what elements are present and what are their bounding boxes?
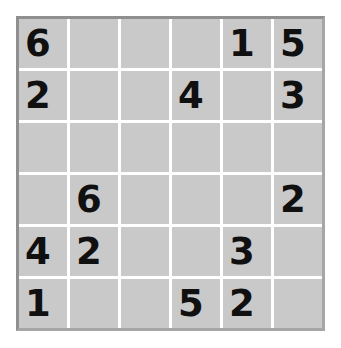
cell-r6c1[interactable]: 1 [19,279,67,328]
cell-r1c5[interactable]: 1 [223,19,271,68]
cell-r5c6[interactable] [274,227,322,276]
cell-r2c4[interactable]: 4 [172,71,220,120]
cell-r1c3[interactable] [121,19,169,68]
cell-r2c1[interactable]: 2 [19,71,67,120]
sudoku-puzzle-container: 6 1 5 2 4 3 6 2 4 2 [0,0,341,348]
cell-r5c1[interactable]: 4 [19,227,67,276]
cell-value: 6 [19,25,50,62]
cell-value: 4 [172,77,203,114]
cell-value: 4 [19,233,50,270]
cell-r3c5[interactable] [223,123,271,172]
cell-r5c5[interactable]: 3 [223,227,271,276]
cell-value: 2 [19,77,50,114]
cell-value: 3 [223,233,254,270]
cell-r6c4[interactable]: 5 [172,279,220,328]
cell-r3c4[interactable] [172,123,220,172]
cell-value: 6 [70,181,101,218]
cell-r4c2[interactable]: 6 [70,175,118,224]
cell-value: 3 [274,77,305,114]
cell-r3c2[interactable] [70,123,118,172]
cell-value: 1 [223,25,254,62]
cell-r6c5[interactable]: 2 [223,279,271,328]
cell-r2c3[interactable] [121,71,169,120]
cell-r4c3[interactable] [121,175,169,224]
sudoku-grid: 6 1 5 2 4 3 6 2 4 2 [19,19,322,328]
cell-value: 2 [274,181,305,218]
sudoku-board: 6 1 5 2 4 3 6 2 4 2 [16,16,325,331]
cell-r4c5[interactable] [223,175,271,224]
cell-r1c1[interactable]: 6 [19,19,67,68]
cell-r2c6[interactable]: 3 [274,71,322,120]
cell-r4c6[interactable]: 2 [274,175,322,224]
cell-value: 5 [172,285,203,322]
cell-r1c4[interactable] [172,19,220,68]
cell-r3c6[interactable] [274,123,322,172]
cell-r1c6[interactable]: 5 [274,19,322,68]
cell-r4c4[interactable] [172,175,220,224]
cell-value: 2 [223,285,254,322]
cell-r2c2[interactable] [70,71,118,120]
cell-value: 5 [274,25,305,62]
cell-r6c2[interactable] [70,279,118,328]
cell-r1c2[interactable] [70,19,118,68]
cell-r3c3[interactable] [121,123,169,172]
cell-r4c1[interactable] [19,175,67,224]
cell-r2c5[interactable] [223,71,271,120]
cell-r5c4[interactable] [172,227,220,276]
cell-r5c3[interactable] [121,227,169,276]
cell-r3c1[interactable] [19,123,67,172]
cell-r5c2[interactable]: 2 [70,227,118,276]
cell-value: 2 [70,233,101,270]
cell-value: 1 [19,285,50,322]
cell-r6c3[interactable] [121,279,169,328]
cell-r6c6[interactable] [274,279,322,328]
